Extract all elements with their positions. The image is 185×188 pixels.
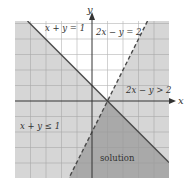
solution-label: solution xyxy=(100,153,135,163)
region2-label: 2x − y > 2 xyxy=(125,85,171,95)
x-axis-label: x xyxy=(178,95,184,106)
region1-label: x + y ≤ 1 xyxy=(20,121,60,131)
x-axis-arrow-icon xyxy=(169,98,176,104)
inequality-graph: x y x + y = 1 2x − y = 2 2x − y > 2 x + … xyxy=(0,0,185,188)
line2-label: 2x − y = 2 xyxy=(95,27,141,37)
y-axis-label: y xyxy=(86,4,93,15)
line1-label: x + y = 1 xyxy=(45,23,85,33)
